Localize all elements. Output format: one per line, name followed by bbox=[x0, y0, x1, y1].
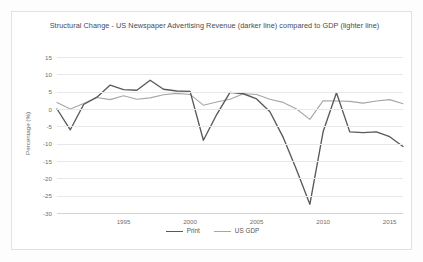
chart-card: Structural Change - US Newspaper Adverti… bbox=[11, 11, 412, 250]
x-tick-label: 2005 bbox=[240, 218, 274, 225]
y-tick-label: 10 bbox=[30, 71, 52, 78]
y-tick-label: -10 bbox=[30, 140, 52, 147]
gridline bbox=[57, 196, 403, 197]
plot-svg bbox=[12, 12, 413, 251]
y-tick-label: 5 bbox=[30, 88, 52, 95]
gridline bbox=[57, 74, 403, 75]
gridline bbox=[57, 161, 403, 162]
gridline bbox=[57, 92, 403, 93]
x-axis-line bbox=[57, 213, 403, 214]
gridline bbox=[57, 126, 403, 127]
legend-swatch-icon bbox=[214, 231, 231, 232]
x-tick-label: 2010 bbox=[306, 218, 340, 225]
y-tick-label: -15 bbox=[30, 158, 52, 165]
x-tick-label: 2000 bbox=[173, 218, 207, 225]
gridline bbox=[57, 144, 403, 145]
legend-item[interactable]: US GDP bbox=[214, 227, 260, 235]
y-tick-label: -30 bbox=[30, 210, 52, 217]
y-tick-label: -20 bbox=[30, 175, 52, 182]
gridline bbox=[57, 109, 403, 110]
series-line-us-gdp bbox=[57, 93, 403, 119]
y-tick-label: -5 bbox=[30, 123, 52, 130]
legend-swatch-icon bbox=[166, 231, 183, 232]
legend-label: Print bbox=[187, 227, 200, 235]
chart-legend: PrintUS GDP bbox=[12, 227, 413, 235]
y-tick-label: 0 bbox=[30, 106, 52, 113]
legend-label: US GDP bbox=[235, 227, 260, 235]
legend-item[interactable]: Print bbox=[166, 227, 200, 235]
y-tick-label: -25 bbox=[30, 192, 52, 199]
gridline bbox=[57, 57, 403, 58]
gridline bbox=[57, 178, 403, 179]
chart-page: Structural Change - US Newspaper Adverti… bbox=[0, 0, 423, 262]
plot-area: Percentage (%) 151050-5-10-15-20-25-30 1… bbox=[12, 12, 413, 251]
y-tick-label: 15 bbox=[30, 54, 52, 61]
x-tick-label: 2015 bbox=[373, 218, 407, 225]
x-tick-label: 1995 bbox=[107, 218, 141, 225]
